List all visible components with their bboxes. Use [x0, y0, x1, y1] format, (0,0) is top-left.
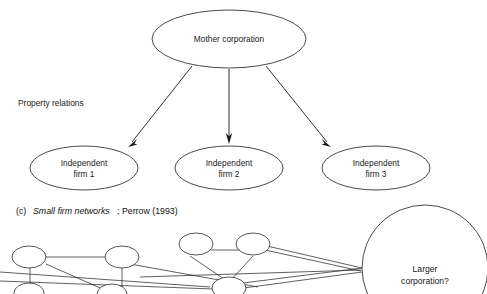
- arrow-to-firm-1-line: [132, 66, 192, 142]
- node-independent-firm-2: Independent firm 2: [175, 146, 283, 190]
- arrow-to-firm-1-head: [128, 139, 138, 147]
- larger-corporation-label-line2: corporation?: [401, 276, 449, 286]
- caption-title: Small firm networks: [33, 206, 110, 216]
- caption-rest: ; Perrow (1993): [117, 206, 178, 216]
- node-independent-firm-1: Independent firm 1: [30, 146, 138, 190]
- network-node: [105, 246, 139, 268]
- network-edge-double: [265, 250, 361, 271]
- network-node: [12, 246, 46, 268]
- network-node: [179, 233, 213, 255]
- arrow-to-firm-3-line: [266, 66, 327, 142]
- larger-corporation-label-line1: Larger: [413, 264, 438, 274]
- node-mother-corporation: Mother corporation: [152, 10, 306, 68]
- independent-firm-3-label-line2: firm 3: [366, 169, 387, 179]
- caption: (c) Small firm networks ; Perrow (1993): [16, 206, 178, 216]
- property-relations-label: Property relations: [18, 98, 84, 108]
- arrow-to-firm-3-head: [322, 139, 332, 147]
- independent-firm-2-label-line2: firm 2: [219, 169, 240, 179]
- network-node: [14, 283, 44, 294]
- network-edge: [190, 256, 227, 281]
- network-edge-double: [244, 272, 362, 288]
- independent-firm-3-label-line1: Independent: [353, 158, 400, 168]
- independent-firm-2-label-line1: Independent: [206, 158, 253, 168]
- network-edge-double: [267, 246, 362, 268]
- node-larger-corporation: Larger corporation?: [362, 205, 487, 294]
- network-edge: [140, 270, 361, 277]
- arrow-to-firm-1: [128, 66, 192, 147]
- network-edges: [0, 246, 362, 292]
- independent-firm-1-label-line1: Independent: [61, 158, 108, 168]
- independent-firm-1-ellipse: [30, 146, 138, 190]
- independent-firm-1-label-line2: firm 1: [74, 169, 95, 179]
- arrow-to-firm-3: [266, 66, 331, 147]
- independent-firm-3-ellipse: [322, 146, 430, 190]
- network-node: [236, 233, 270, 255]
- network-nodes: [12, 233, 270, 294]
- arrow-to-firm-2: [226, 69, 232, 144]
- independent-firm-2-ellipse: [175, 146, 283, 190]
- figure-canvas: Mother corporation Property relations In…: [0, 0, 487, 294]
- mother-corporation-label: Mother corporation: [194, 34, 265, 44]
- node-independent-firm-3: Independent firm 3: [322, 146, 430, 190]
- caption-letter: (c): [16, 206, 26, 216]
- network-edge: [231, 256, 253, 280]
